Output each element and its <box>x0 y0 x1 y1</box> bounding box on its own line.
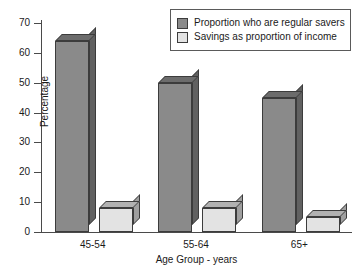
bar <box>55 41 89 232</box>
y-axis-tick <box>34 232 41 233</box>
y-axis-tick-label: 10 <box>4 197 30 207</box>
bar-front-face <box>262 98 296 232</box>
legend-item-label: Savings as proportion of income <box>194 31 337 43</box>
legend-swatch-icon <box>177 32 188 43</box>
bar-top-face <box>306 210 347 217</box>
bar-side-face <box>296 84 303 225</box>
y-axis-tick <box>34 53 41 54</box>
bar-top-face <box>55 34 96 41</box>
y-axis-tick-label: 20 <box>4 167 30 177</box>
bar-front-face <box>306 217 340 232</box>
bar-side-face <box>236 194 243 225</box>
x-axis-category-label: 55-64 <box>144 239 247 250</box>
bar <box>158 83 192 232</box>
bar-top-face <box>158 76 199 83</box>
bar <box>202 208 236 232</box>
y-axis-tick <box>34 142 41 143</box>
x-axis-title: Age Group - years <box>41 254 352 265</box>
bar-side-face <box>192 69 199 225</box>
y-axis-tick-label: 40 <box>4 108 30 118</box>
bar-front-face <box>202 208 236 232</box>
bar-top-face <box>99 201 140 208</box>
y-axis-tick <box>34 83 41 84</box>
y-axis-tick-label: 0 <box>4 227 30 237</box>
bar-front-face <box>158 83 192 232</box>
y-axis-tick <box>34 202 41 203</box>
legend-item: Savings as proportion of income <box>177 31 344 43</box>
chart-legend: Proportion who are regular savers Saving… <box>170 9 351 51</box>
y-axis-tick-label: 70 <box>4 18 30 28</box>
bar-front-face <box>99 208 133 232</box>
bar <box>306 217 340 232</box>
plot-area <box>41 23 351 232</box>
x-axis-category-label: 45-54 <box>41 239 144 250</box>
x-axis-line <box>41 232 352 233</box>
bar-side-face <box>133 194 140 225</box>
y-axis-tick-label: 50 <box>4 78 30 88</box>
legend-item: Proportion who are regular savers <box>177 17 344 29</box>
x-axis-category-label: 65+ <box>248 239 351 250</box>
legend-item-label: Proportion who are regular savers <box>194 17 345 29</box>
bar-side-face <box>89 27 96 225</box>
bar <box>262 98 296 232</box>
bar-front-face <box>55 41 89 232</box>
legend-swatch-icon <box>177 18 188 29</box>
y-axis-tick-label: 30 <box>4 137 30 147</box>
bar-top-face <box>262 91 303 98</box>
bar <box>99 208 133 232</box>
bar-chart: Percentage 010203040506070 45-5455-6465+… <box>0 0 355 273</box>
y-axis-tick-label: 60 <box>4 48 30 58</box>
y-axis-tick <box>34 23 41 24</box>
y-axis-tick <box>34 172 41 173</box>
y-axis-tick <box>34 113 41 114</box>
